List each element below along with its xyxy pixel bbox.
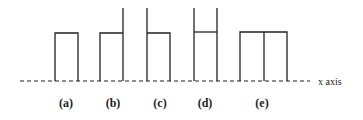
shape-c — [147, 8, 170, 81]
panel-label-e: (e) — [255, 96, 268, 110]
panel-label-c: (c) — [153, 96, 166, 110]
panel-label-a: (a) — [59, 96, 73, 110]
panel-label-d: (d) — [198, 96, 213, 110]
shape-b — [100, 8, 123, 81]
panel-label-b: (b) — [106, 96, 121, 110]
shape-d — [194, 8, 217, 81]
shape-a — [55, 33, 78, 81]
diagram-canvas: x axis (a) (b) (c) (d) (e) — [0, 0, 363, 120]
shape-e — [240, 32, 287, 81]
x-axis-label: x axis — [318, 76, 342, 87]
